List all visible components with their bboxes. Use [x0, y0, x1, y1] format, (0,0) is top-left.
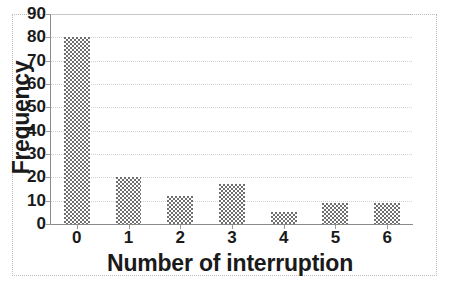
figure-container: Frequency 0102030405060708090 0123456 Nu…: [0, 0, 453, 298]
y-tick-label: 10: [10, 191, 46, 211]
x-tick-mark: [129, 225, 130, 229]
x-tick-label: 2: [154, 228, 206, 248]
x-tick-label: 4: [258, 228, 310, 248]
bar-slot: [103, 14, 155, 224]
bar-slot: [51, 14, 103, 224]
y-tick-label: 40: [10, 121, 46, 141]
x-tick-label: 1: [103, 228, 155, 248]
bar-slot: [361, 14, 413, 224]
y-tick-label: 0: [10, 214, 46, 234]
bar: [271, 212, 297, 224]
y-tick-mark: [46, 61, 51, 62]
x-tick-mark: [232, 225, 233, 229]
bar-slot: [154, 14, 206, 224]
bar-slot: [258, 14, 310, 224]
bar-slot: [310, 14, 362, 224]
x-axis-title: Number of interruption: [40, 250, 420, 277]
x-axis-tick-labels: 0123456: [51, 228, 413, 252]
x-tick-label: 0: [51, 228, 103, 248]
y-tick-mark: [46, 37, 51, 38]
y-tick-mark: [46, 201, 51, 202]
x-tick-label: 6: [361, 228, 413, 248]
x-tick-mark: [77, 225, 78, 229]
y-tick-mark: [46, 84, 51, 85]
y-tick-mark: [46, 224, 51, 225]
y-axis-tick-labels: 0102030405060708090: [4, 14, 46, 224]
y-tick-mark: [46, 154, 51, 155]
bar: [219, 184, 245, 224]
y-tick-mark: [46, 14, 51, 15]
y-tick-label: 50: [10, 97, 46, 117]
y-tick-label: 80: [10, 27, 46, 47]
x-tick-label: 5: [310, 228, 362, 248]
bar-slot: [206, 14, 258, 224]
bar: [374, 203, 400, 224]
x-tick-label: 3: [206, 228, 258, 248]
bar: [64, 37, 90, 224]
bar: [116, 177, 142, 224]
x-tick-mark: [335, 225, 336, 229]
bars-layer: [51, 14, 413, 224]
y-tick-label: 70: [10, 51, 46, 71]
y-tick-mark: [46, 131, 51, 132]
y-tick-label: 20: [10, 167, 46, 187]
bar: [322, 203, 348, 224]
y-tick-mark: [46, 177, 51, 178]
x-tick-mark: [387, 225, 388, 229]
y-tick-label: 60: [10, 74, 46, 94]
y-tick-label: 90: [10, 4, 46, 24]
y-tick-label: 30: [10, 144, 46, 164]
x-tick-mark: [180, 225, 181, 229]
bar: [167, 196, 193, 224]
x-tick-mark: [284, 225, 285, 229]
y-tick-mark: [46, 107, 51, 108]
